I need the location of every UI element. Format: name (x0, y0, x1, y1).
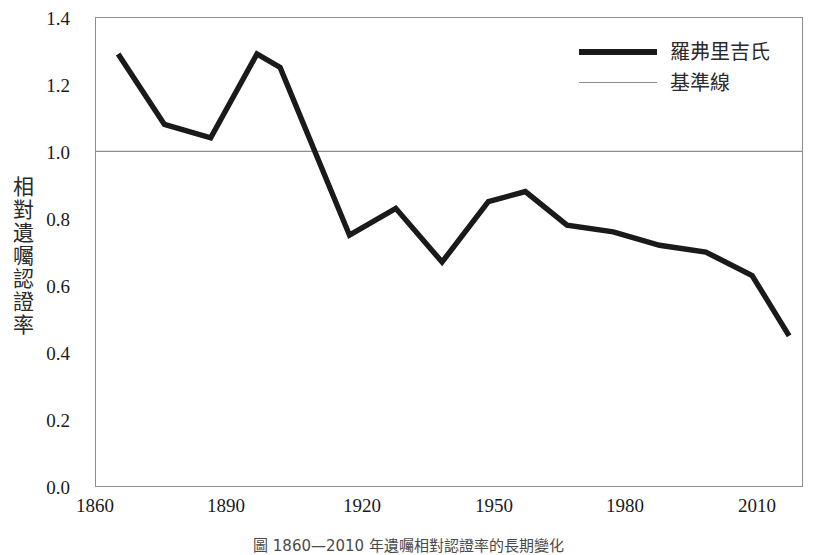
x-tick-label-2010: 2010 (722, 496, 792, 515)
figure-caption: 圖 1860—2010 年遺囑相對認證率的長期變化 (0, 538, 817, 555)
y-tick-label-0-6: 0.6 (24, 277, 70, 296)
x-tick-label-1920: 1920 (327, 496, 397, 515)
x-tick-label-1890: 1890 (191, 496, 261, 515)
legend-label-baseline: 基準線 (670, 72, 730, 94)
y-tick-label-0-2: 0.2 (24, 411, 70, 430)
legend-swatch-thick-line-icon (578, 49, 658, 55)
x-tick-label-1860: 1860 (60, 496, 130, 515)
legend-swatch-thin-line-icon (578, 82, 658, 83)
legend-item-baseline: 基準線 (556, 67, 803, 98)
legend-label-series: 羅弗里吉氏 (670, 41, 770, 63)
y-tick-label-1-0: 1.0 (24, 143, 70, 162)
x-tick-label-1980: 1980 (590, 496, 660, 515)
y-axis-title: 相 對 遺 囑 認 證 率 (6, 176, 40, 337)
y-tick-label-0-8: 0.8 (24, 210, 70, 229)
legend: 羅弗里吉氏 基準線 (556, 26, 803, 106)
legend-item-series: 羅弗里吉氏 (556, 36, 803, 67)
y-tick-label-0-4: 0.4 (24, 344, 70, 363)
y-tick-label-1-2: 1.2 (24, 76, 70, 95)
y-tick-label-0-0: 0.0 (24, 478, 70, 497)
y-tick-label-1-4: 1.4 (24, 9, 70, 28)
x-tick-label-1950: 1950 (459, 496, 529, 515)
